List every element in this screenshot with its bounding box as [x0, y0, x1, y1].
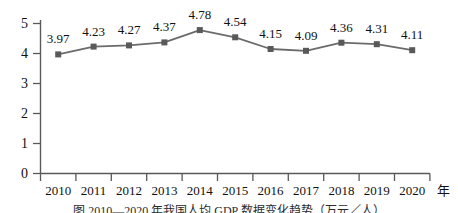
x-tick-label: 2014 [180, 184, 220, 197]
y-tick-label: 2 [14, 107, 28, 121]
x-tick-label: 2019 [357, 184, 397, 197]
data-point-marker[interactable] [126, 42, 132, 48]
data-point-marker[interactable] [268, 46, 274, 52]
data-point-marker[interactable] [409, 47, 415, 53]
data-point-marker[interactable] [374, 41, 380, 47]
data-point-label: 4.37 [144, 20, 184, 33]
x-tick-label: 2010 [38, 184, 78, 197]
x-tick-label: 2015 [215, 184, 255, 197]
data-point-label: 4.11 [392, 28, 432, 41]
x-tick-label: 2013 [144, 184, 184, 197]
x-tick-label: 2017 [286, 184, 326, 197]
y-tick-label: 4 [14, 47, 28, 61]
x-axis-ticks [41, 174, 430, 182]
data-point-label: 4.54 [215, 15, 255, 28]
data-point-marker[interactable] [338, 40, 344, 46]
data-point-label: 3.97 [38, 32, 78, 45]
data-point-marker[interactable] [55, 51, 61, 57]
data-point-marker[interactable] [91, 44, 97, 50]
data-point-label: 4.27 [109, 23, 149, 36]
x-tick-label: 2011 [74, 184, 114, 197]
data-point-label: 4.15 [251, 27, 291, 40]
y-tick-label: 1 [14, 137, 28, 151]
data-point-label: 4.36 [321, 21, 361, 34]
data-point-marker[interactable] [161, 39, 167, 45]
data-point-label: 4.31 [357, 22, 397, 35]
y-tick-label: 3 [14, 77, 28, 91]
y-tick-label: 5 [14, 17, 28, 31]
data-point-marker[interactable] [232, 34, 238, 40]
x-tick-label: 2012 [109, 184, 149, 197]
y-axis-ticks [33, 24, 41, 174]
x-tick-label: 2020 [392, 184, 432, 197]
data-point-label: 4.09 [286, 29, 326, 42]
data-point-label: 4.23 [74, 25, 114, 38]
data-point-marker[interactable] [303, 48, 309, 54]
x-axis-unit-label: 年 [437, 184, 450, 197]
x-tick-label: 2016 [251, 184, 291, 197]
data-point-marker[interactable] [197, 27, 203, 33]
data-point-label: 4.78 [180, 8, 220, 21]
figure-container: 0 1 2 3 4 5 年 20102011201220132014201520… [0, 0, 458, 213]
y-tick-label: 0 [14, 167, 28, 181]
x-tick-label: 2018 [321, 184, 361, 197]
figure-caption: 图 2010—2020 年我国人均 GDP 数据变化趋势（万元／人） [0, 201, 458, 213]
